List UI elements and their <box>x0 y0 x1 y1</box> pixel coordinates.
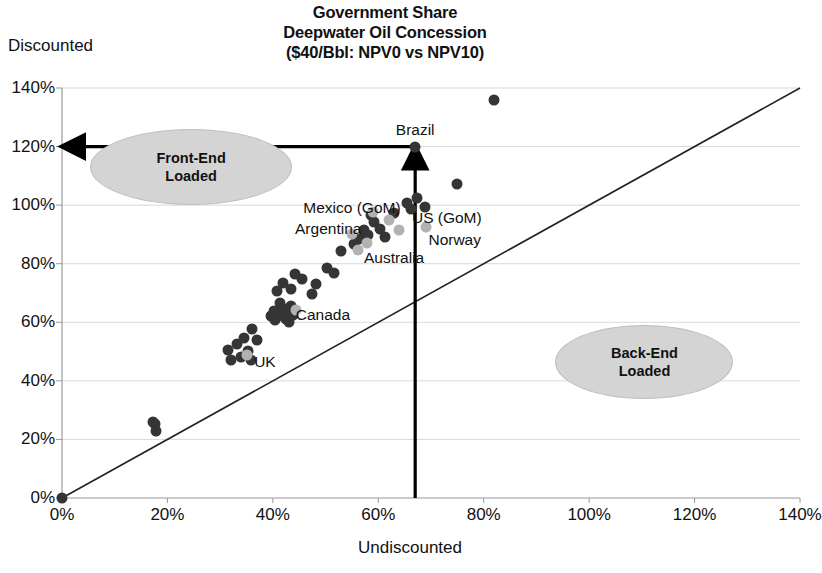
x-tick-0: 0% <box>50 505 75 525</box>
front-end-loaded-callout-text: Front-EndLoaded <box>157 149 226 185</box>
y-tick-100: 100% <box>0 195 62 215</box>
data-point <box>329 267 340 278</box>
data-point <box>239 333 250 344</box>
data-point <box>306 288 317 299</box>
y-tick-120: 120% <box>0 137 62 157</box>
chart-title-line-3: ($40/Bbl: NPV0 vs NPV10) <box>190 42 580 62</box>
chart-title-line-1: Government Share <box>190 2 580 22</box>
back-end-loaded-callout: Back-EndLoaded <box>555 325 733 399</box>
data-point <box>489 94 500 105</box>
point-label-argentina: Argentina <box>295 220 361 238</box>
x-tick-60: 60% <box>361 505 395 525</box>
point-label-uk: UK <box>254 353 276 371</box>
point-label-us-gom: US (GoM) <box>412 209 482 227</box>
y-tick-80: 80% <box>0 254 62 274</box>
data-point <box>285 284 296 295</box>
x-axis-label: Undiscounted <box>0 538 820 558</box>
back-end-loaded-callout-line: Back-End <box>611 344 678 362</box>
point-label-australia: Australia <box>364 249 424 267</box>
x-tick-40: 40% <box>256 505 290 525</box>
x-tick-80: 80% <box>467 505 501 525</box>
x-tick-20: 20% <box>150 505 184 525</box>
x-tick-120: 120% <box>673 505 716 525</box>
data-point <box>410 141 421 152</box>
y-tick-20: 20% <box>0 429 62 449</box>
y-tick-140: 140% <box>0 78 62 98</box>
data-point <box>361 238 372 249</box>
data-point <box>452 179 463 190</box>
data-point <box>297 273 308 284</box>
chart-title: Government Share Deepwater Oil Concessio… <box>190 2 580 62</box>
front-end-loaded-callout-line: Front-End <box>157 149 226 167</box>
data-point <box>246 324 257 335</box>
data-point <box>241 349 252 360</box>
front-end-loaded-callout: Front-EndLoaded <box>90 129 292 205</box>
point-label-norway: Norway <box>428 231 481 249</box>
data-point <box>394 225 405 236</box>
x-tick-100: 100% <box>567 505 610 525</box>
data-point <box>251 335 262 346</box>
point-label-mexico-gom: Mexico (GoM) <box>303 199 400 217</box>
chart-title-line-2: Deepwater Oil Concession <box>190 22 580 42</box>
back-end-loaded-callout-text: Back-EndLoaded <box>611 344 678 380</box>
data-point <box>379 232 390 243</box>
data-point <box>336 246 347 257</box>
point-label-brazil: Brazil <box>396 121 435 139</box>
y-axis-tick-labels: 0%20%40%60%80%100%120%140% <box>0 0 62 573</box>
point-label-canada: Canada <box>296 306 350 324</box>
x-tick-140: 140% <box>778 505 821 525</box>
data-point <box>151 426 162 437</box>
back-end-loaded-callout-line: Loaded <box>611 362 678 380</box>
front-end-loaded-callout-line: Loaded <box>157 167 226 185</box>
data-point <box>311 279 322 290</box>
y-tick-60: 60% <box>0 312 62 332</box>
y-tick-40: 40% <box>0 371 62 391</box>
data-point <box>57 493 68 504</box>
